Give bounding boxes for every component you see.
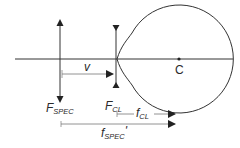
inverted-arrowhead-top-icon xyxy=(113,25,120,31)
vertex-distance-arrow: v xyxy=(62,60,113,78)
optics-diagram: C v FSPEC FCL fCL fSPEC' xyxy=(0,0,240,148)
spectacle-lens xyxy=(57,19,64,103)
eye-center-label: C xyxy=(175,63,184,77)
spectacle-focal-length-arrow: fSPEC' xyxy=(61,121,175,141)
arrow-up-icon xyxy=(57,19,64,26)
spectacle-focal-length-label: fSPEC' xyxy=(101,124,128,141)
contact-lens xyxy=(113,25,120,88)
contact-lens-focal-length-label: fCL xyxy=(136,106,149,121)
inverted-arrowhead-bottom-icon xyxy=(113,82,120,88)
contact-lens-focal-length-arrow: fCL xyxy=(117,106,175,121)
eye-center-point xyxy=(177,57,180,60)
arrow-down-icon xyxy=(57,96,64,103)
vertex-distance-label: v xyxy=(84,60,91,74)
spectacle-focal-point-label: FSPEC xyxy=(46,101,74,116)
contact-lens-focal-point-label: FCL xyxy=(105,99,122,114)
